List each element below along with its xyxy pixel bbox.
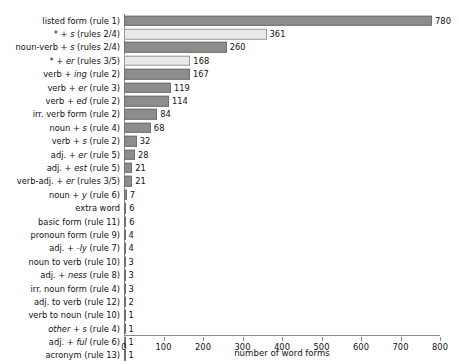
bar bbox=[124, 109, 157, 120]
bar-value-label: 2 bbox=[129, 297, 134, 307]
bar bbox=[124, 69, 190, 80]
category-label: noun-verb + s (rules 2/4) bbox=[16, 42, 120, 52]
bar-chart: listed form (rule 1)780* + s (rules 2/4)… bbox=[0, 0, 459, 364]
bar-value-label: 1 bbox=[129, 310, 134, 320]
bar bbox=[124, 149, 135, 160]
x-tick-mark bbox=[164, 337, 165, 341]
bar-row: verb + ing (rule 2)167 bbox=[124, 68, 440, 81]
bar-row: pronoun form (rule 9)4 bbox=[124, 228, 440, 241]
bar-row: verb + s (rule 2)32 bbox=[124, 135, 440, 148]
bar bbox=[124, 176, 132, 187]
bar bbox=[124, 29, 267, 40]
bar bbox=[124, 256, 126, 267]
category-label: adj. + er (rule 5) bbox=[51, 150, 120, 160]
bar-row: noun-verb + s (rules 2/4)260 bbox=[124, 41, 440, 54]
bar bbox=[124, 163, 132, 174]
plot-area: listed form (rule 1)780* + s (rules 2/4)… bbox=[124, 14, 440, 336]
bar bbox=[124, 136, 137, 147]
bar-row: noun + y (rule 6)7 bbox=[124, 188, 440, 201]
x-tick-mark bbox=[243, 337, 244, 341]
category-label: verb-adj. + er (rules 3/5) bbox=[17, 176, 120, 186]
category-label: verb + ing (rule 2) bbox=[43, 69, 120, 79]
bar-row: noun to verb (rule 10)3 bbox=[124, 255, 440, 268]
bar bbox=[124, 283, 126, 294]
bar-rows: listed form (rule 1)780* + s (rules 2/4)… bbox=[124, 14, 440, 362]
x-tick-mark bbox=[203, 337, 204, 341]
category-label: verb + ed (rule 2) bbox=[46, 96, 120, 106]
bar-row: adj. to verb (rule 12)2 bbox=[124, 295, 440, 308]
category-label: verb + s (rule 2) bbox=[52, 136, 120, 146]
category-label: adj. + ful (rule 6) bbox=[49, 337, 120, 347]
category-label: basic form (rule 11) bbox=[38, 217, 120, 227]
x-tick-mark bbox=[282, 337, 283, 341]
category-label: noun + s (rule 4) bbox=[49, 123, 120, 133]
category-label: verb + er (rule 3) bbox=[47, 83, 120, 93]
bar bbox=[124, 230, 126, 241]
category-label: irr. noun form (rule 4) bbox=[31, 284, 120, 294]
x-tick-mark bbox=[124, 337, 125, 341]
category-label: adj. + ness (rule 8) bbox=[40, 270, 120, 280]
category-label: * + s (rules 2/4) bbox=[54, 29, 120, 39]
category-label: noun to verb (rule 10) bbox=[28, 257, 120, 267]
bar bbox=[124, 216, 126, 227]
category-label: other + s (rule 4) bbox=[48, 324, 120, 334]
bar-value-label: 3 bbox=[129, 284, 134, 294]
bar-value-label: 4 bbox=[129, 243, 134, 253]
bar-value-label: 6 bbox=[129, 217, 134, 227]
category-label: adj. + -ly (rule 7) bbox=[49, 243, 120, 253]
x-tick-mark bbox=[440, 337, 441, 341]
category-label: adj. to verb (rule 12) bbox=[34, 297, 120, 307]
x-axis-title: number of word forms bbox=[124, 348, 440, 359]
bar bbox=[124, 203, 126, 214]
bar bbox=[124, 310, 126, 321]
bar bbox=[124, 96, 169, 107]
bar bbox=[124, 123, 151, 134]
bar-value-label: 21 bbox=[135, 176, 146, 186]
category-label: extra word bbox=[75, 203, 120, 213]
bar-row: verb-adj. + er (rules 3/5)21 bbox=[124, 175, 440, 188]
bar-value-label: 3 bbox=[129, 270, 134, 280]
bar-row: other + s (rule 4)1 bbox=[124, 322, 440, 335]
bar bbox=[124, 82, 171, 93]
bar-row: irr. verb form (rule 2)84 bbox=[124, 108, 440, 121]
bar bbox=[124, 323, 126, 334]
bar bbox=[124, 42, 227, 53]
bar-value-label: 7 bbox=[130, 190, 135, 200]
bar-value-label: 3 bbox=[129, 257, 134, 267]
bar-value-label: 168 bbox=[193, 56, 209, 66]
category-label: * + er (rules 3/5) bbox=[50, 56, 120, 66]
bar-row: listed form (rule 1)780 bbox=[124, 14, 440, 27]
bar-row: verb + er (rule 3)119 bbox=[124, 81, 440, 94]
category-label: listed form (rule 1) bbox=[42, 16, 120, 26]
bar bbox=[124, 56, 190, 67]
category-label: noun + y (rule 6) bbox=[49, 190, 120, 200]
bar-row: * + s (rules 2/4)361 bbox=[124, 27, 440, 40]
x-tick-mark bbox=[401, 337, 402, 341]
category-label: verb to noun (rule 10) bbox=[28, 310, 120, 320]
bar-value-label: 6 bbox=[129, 203, 134, 213]
bar-row: adj. + -ly (rule 7)4 bbox=[124, 242, 440, 255]
bar-row: adj. + ness (rule 8)3 bbox=[124, 268, 440, 281]
bar-value-label: 361 bbox=[270, 29, 286, 39]
bar bbox=[124, 15, 432, 26]
x-tick-mark bbox=[361, 337, 362, 341]
bar-value-label: 167 bbox=[193, 69, 209, 79]
x-tick-mark bbox=[322, 337, 323, 341]
bar-value-label: 119 bbox=[174, 83, 190, 93]
bar-value-label: 260 bbox=[230, 42, 246, 52]
bar bbox=[124, 243, 126, 254]
bar-row: irr. noun form (rule 4)3 bbox=[124, 282, 440, 295]
bar-value-label: 84 bbox=[160, 109, 171, 119]
bar-row: adj. + est (rule 5)21 bbox=[124, 161, 440, 174]
bar-row: verb + ed (rule 2)114 bbox=[124, 94, 440, 107]
bar-row: adj. + er (rule 5)28 bbox=[124, 148, 440, 161]
bar bbox=[124, 190, 127, 201]
bar-row: extra word6 bbox=[124, 201, 440, 214]
bar-value-label: 68 bbox=[154, 123, 165, 133]
bar-value-label: 114 bbox=[172, 96, 188, 106]
bar-value-label: 32 bbox=[140, 136, 151, 146]
bar-row: noun + s (rule 4)68 bbox=[124, 121, 440, 134]
category-label: adj. + est (rule 5) bbox=[47, 163, 120, 173]
bar bbox=[124, 297, 126, 308]
category-label: acronym (rule 13) bbox=[45, 350, 120, 360]
